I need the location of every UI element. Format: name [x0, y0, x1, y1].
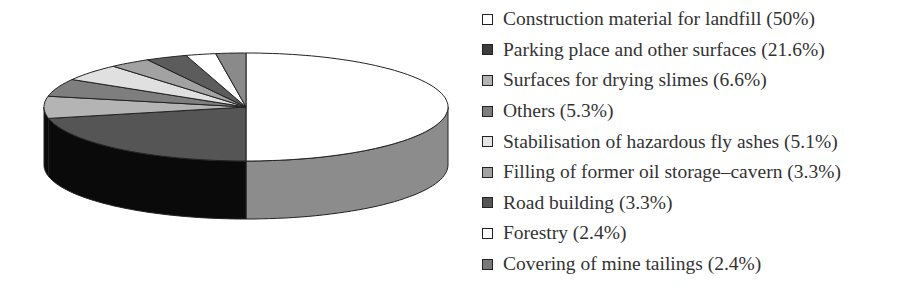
pie-chart — [0, 0, 470, 291]
legend-item: Forestry (2.4%) — [482, 218, 912, 249]
legend-swatch-icon — [482, 259, 493, 270]
legend-label: Stabilisation of hazardous fly ashes (5.… — [503, 131, 838, 153]
legend-swatch-icon — [482, 106, 493, 117]
legend-label: Road building (3.3%) — [503, 192, 673, 214]
legend-label: Construction material for landfill (50%) — [503, 8, 815, 30]
legend-item: Road building (3.3%) — [482, 188, 912, 219]
legend-swatch-icon — [482, 136, 493, 147]
pie-chart-graphic — [0, 0, 470, 291]
legend-item: Surfaces for drying slimes (6.6%) — [482, 65, 912, 96]
legend-swatch-icon — [482, 75, 493, 86]
legend-swatch-icon — [482, 167, 493, 178]
legend-swatch-icon — [482, 197, 493, 208]
legend-label: Forestry (2.4%) — [503, 222, 626, 244]
legend-label: Surfaces for drying slimes (6.6%) — [503, 69, 767, 91]
legend-item: Parking place and other surfaces (21.6%) — [482, 35, 912, 66]
legend-swatch-icon — [482, 44, 493, 55]
legend-item: Stabilisation of hazardous fly ashes (5.… — [482, 126, 912, 157]
legend-swatch-icon — [482, 14, 493, 25]
legend-label: Covering of mine tailings (2.4%) — [503, 253, 761, 275]
legend: Construction material for landfill (50%)… — [482, 4, 912, 279]
legend-item: Filling of former oil storage–cavern (3.… — [482, 157, 912, 188]
legend-label: Others (5.3%) — [503, 100, 613, 122]
legend-swatch-icon — [482, 228, 493, 239]
legend-label: Parking place and other surfaces (21.6%) — [503, 39, 825, 61]
legend-item: Construction material for landfill (50%) — [482, 4, 912, 35]
legend-label: Filling of former oil storage–cavern (3.… — [503, 161, 841, 183]
legend-item: Covering of mine tailings (2.4%) — [482, 249, 912, 280]
legend-item: Others (5.3%) — [482, 96, 912, 127]
